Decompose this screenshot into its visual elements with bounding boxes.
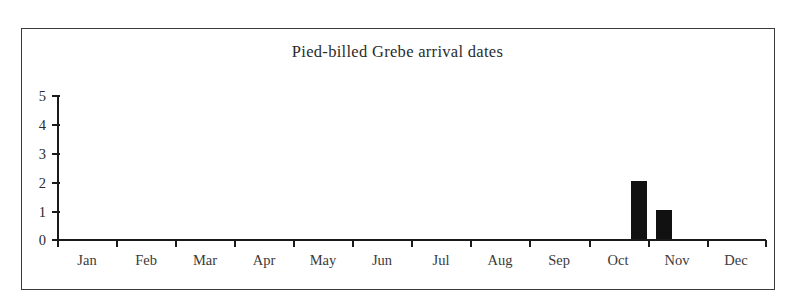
x-tick-11 [707, 240, 709, 247]
y-axis-label-5: 5 [16, 88, 46, 105]
x-tick-3 [234, 240, 236, 247]
bar-oct [631, 181, 647, 239]
x-tick-5 [352, 240, 354, 247]
y-tick-2 [52, 182, 60, 184]
x-tick-4 [293, 240, 295, 247]
x-tick-12 [765, 240, 767, 247]
x-tick-1 [116, 240, 118, 247]
x-tick-6 [411, 240, 413, 247]
x-axis-label-dec: Dec [701, 252, 771, 269]
y-axis-label-2: 2 [16, 175, 46, 192]
plot-area: 5 4 3 2 1 0 Jan Feb Mar [0, 0, 795, 306]
y-axis-line [57, 96, 59, 241]
y-axis-label-3: 3 [16, 146, 46, 163]
bar-nov [656, 210, 672, 239]
y-axis-label-4: 4 [16, 117, 46, 134]
y-tick-1 [52, 211, 60, 213]
y-tick-0 [52, 239, 60, 241]
x-tick-10 [648, 240, 650, 247]
y-axis-label-1: 1 [16, 204, 46, 221]
y-axis-label-0: 0 [16, 232, 46, 249]
x-tick-7 [470, 240, 472, 247]
x-tick-9 [589, 240, 591, 247]
y-tick-5 [52, 95, 60, 97]
y-tick-4 [52, 124, 60, 126]
x-tick-0 [57, 240, 59, 247]
y-tick-3 [52, 153, 60, 155]
x-tick-8 [529, 240, 531, 247]
x-tick-2 [175, 240, 177, 247]
chart-page: Pied-billed Grebe arrival dates 5 4 3 2 … [0, 0, 795, 306]
